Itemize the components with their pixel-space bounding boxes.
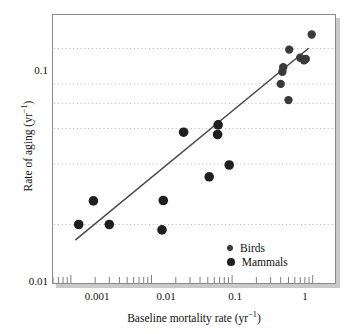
data-point-birds bbox=[302, 55, 310, 63]
x-axis-title-exponent: −1 bbox=[248, 310, 257, 319]
data-point-mammals bbox=[159, 196, 169, 206]
data-point-mammals bbox=[213, 130, 223, 140]
series-mammals bbox=[74, 120, 234, 235]
legend-item-birds: Birds bbox=[227, 241, 288, 255]
legend-marker-mammals-icon bbox=[227, 258, 235, 266]
series-birds bbox=[277, 30, 316, 104]
data-point-mammals bbox=[179, 127, 189, 137]
x-axis-title-paren: ) bbox=[257, 312, 261, 324]
x-axis-ticks bbox=[53, 275, 335, 283]
plot-area bbox=[53, 15, 335, 283]
x-tick-label-0.001: 0.001 bbox=[67, 291, 127, 302]
y-tick-label-0.01: 0.01 bbox=[4, 276, 48, 287]
data-point-mammals bbox=[204, 172, 214, 182]
legend-marker-birds-icon bbox=[227, 245, 233, 251]
chart-legend: Birds Mammals bbox=[227, 241, 288, 269]
x-axis-title: Baseline mortality rate (yr−1) bbox=[52, 312, 336, 324]
legend-label-birds: Birds bbox=[240, 242, 265, 254]
y-axis-title-text: Rate of aging (yr bbox=[22, 113, 34, 191]
x-tick-label-1: 1 bbox=[275, 291, 335, 302]
scatter-plot-svg bbox=[53, 15, 335, 283]
y-axis-title: Rate of aging (yr−1) bbox=[22, 46, 34, 246]
data-point-mammals bbox=[157, 225, 167, 235]
data-point-birds bbox=[279, 63, 287, 71]
data-point-birds bbox=[284, 96, 292, 104]
data-point-mammals bbox=[213, 120, 223, 130]
data-point-birds bbox=[308, 30, 316, 38]
data-point-mammals bbox=[74, 220, 84, 230]
data-point-birds bbox=[277, 80, 285, 88]
x-axis-title-text: Baseline mortality rate (yr bbox=[127, 312, 248, 324]
chart-figure: 0.1 0.01 0.001 0.01 0.1 1 Baseline morta… bbox=[0, 0, 354, 334]
data-point-mammals bbox=[105, 220, 115, 230]
plot-frame bbox=[52, 14, 336, 284]
legend-item-mammals: Mammals bbox=[227, 255, 288, 269]
data-point-birds bbox=[285, 45, 293, 53]
x-tick-label-0.1: 0.1 bbox=[205, 291, 265, 302]
y-axis-title-paren: ) bbox=[22, 101, 34, 105]
data-point-mammals bbox=[224, 160, 234, 170]
legend-label-mammals: Mammals bbox=[242, 256, 288, 268]
trend-line bbox=[76, 49, 308, 240]
data-point-mammals bbox=[89, 196, 99, 206]
y-axis-title-exponent: −1 bbox=[20, 104, 29, 113]
x-tick-label-0.01: 0.01 bbox=[136, 291, 196, 302]
